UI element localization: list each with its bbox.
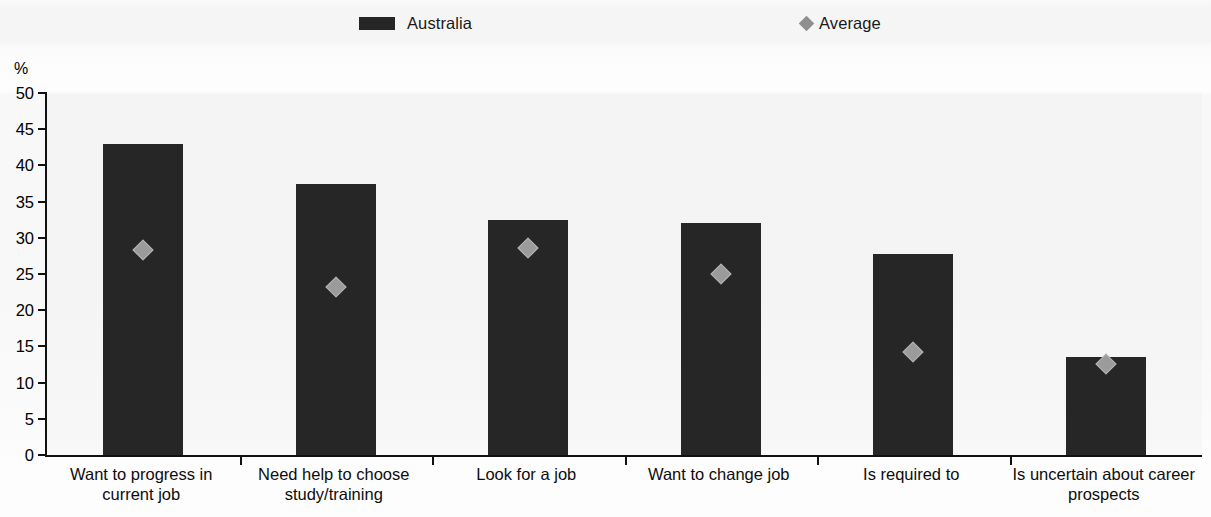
y-axis-tick <box>38 128 47 130</box>
legend-item-australia: Australia <box>359 10 472 36</box>
chart-legend: Australia Average <box>0 10 1211 36</box>
bar <box>296 184 376 456</box>
legend-item-average: Average <box>800 10 881 36</box>
bar <box>681 223 761 455</box>
y-axis-tick-label: 5 <box>4 409 34 428</box>
y-axis-tick <box>38 201 47 203</box>
y-axis-tick <box>38 345 47 347</box>
x-axis-category-label: Want to progress in current job <box>45 464 238 504</box>
plot-area <box>45 93 1202 457</box>
diamond-marker-icon <box>799 15 815 31</box>
y-axis-tick <box>38 237 47 239</box>
y-axis-tick <box>38 382 47 384</box>
x-axis-category-label: Is uncertain about career prospects <box>1008 464 1201 504</box>
legend-label-australia: Australia <box>407 14 472 33</box>
y-axis-tick <box>38 92 47 94</box>
y-axis-tick-label: 25 <box>4 265 34 284</box>
legend-label-average: Average <box>819 14 881 33</box>
y-axis-tick-label: 45 <box>4 120 34 139</box>
y-axis-tick <box>38 309 47 311</box>
y-axis-tick-label: 20 <box>4 301 34 320</box>
y-axis-tick <box>38 164 47 166</box>
y-axis-tick-label: 30 <box>4 228 34 247</box>
x-axis-category-label: Is required to <box>815 464 1008 484</box>
bar-swatch-icon <box>359 17 395 30</box>
y-axis-tick <box>38 454 47 456</box>
y-axis-tick-label: 35 <box>4 192 34 211</box>
y-axis-tick <box>38 273 47 275</box>
y-axis-tick <box>38 418 47 420</box>
y-axis-tick-label: 10 <box>4 373 34 392</box>
y-axis-tick-label: 0 <box>4 446 34 465</box>
y-axis-tick-label: 50 <box>4 84 34 103</box>
y-axis-tick-label: 15 <box>4 337 34 356</box>
plot-background <box>47 93 1202 455</box>
y-axis-unit-label: % <box>14 60 28 78</box>
x-axis-category-label: Need help to choose study/training <box>238 464 431 504</box>
bar <box>103 144 183 455</box>
x-axis-category-label: Look for a job <box>430 464 623 484</box>
y-axis-tick-label: 40 <box>4 156 34 175</box>
chart-figure: Australia Average % 50454035302520151050… <box>0 0 1211 517</box>
x-axis-category-label: Want to change job <box>623 464 816 484</box>
